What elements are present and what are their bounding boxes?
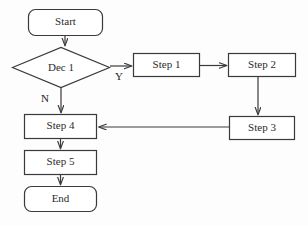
edge-label-yes: Y <box>115 70 123 82</box>
edge-label-no: N <box>41 92 49 104</box>
node-step1-shape[interactable] <box>134 54 200 77</box>
node-step3-shape[interactable] <box>230 117 295 140</box>
node-step2-shape[interactable] <box>229 54 296 77</box>
node-step4-shape[interactable] <box>25 115 97 139</box>
node-start-shape[interactable] <box>29 10 103 36</box>
node-end-shape[interactable] <box>25 187 97 212</box>
node-step5-shape[interactable] <box>25 151 97 175</box>
node-dec1-shape[interactable] <box>13 48 110 88</box>
flowchart-canvas <box>0 0 308 226</box>
